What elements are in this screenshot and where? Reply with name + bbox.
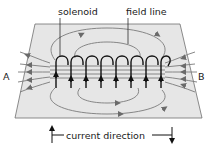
solenoid-diagram: solenoid field line A B current directio… — [0, 0, 214, 155]
end-b-label: B — [198, 71, 205, 82]
end-a-label: A — [3, 71, 10, 82]
paper-plane — [15, 24, 202, 118]
field-line-label: field line — [126, 6, 167, 17]
current-direction-label: current direction — [66, 130, 145, 141]
solenoid-label: solenoid — [58, 6, 98, 17]
